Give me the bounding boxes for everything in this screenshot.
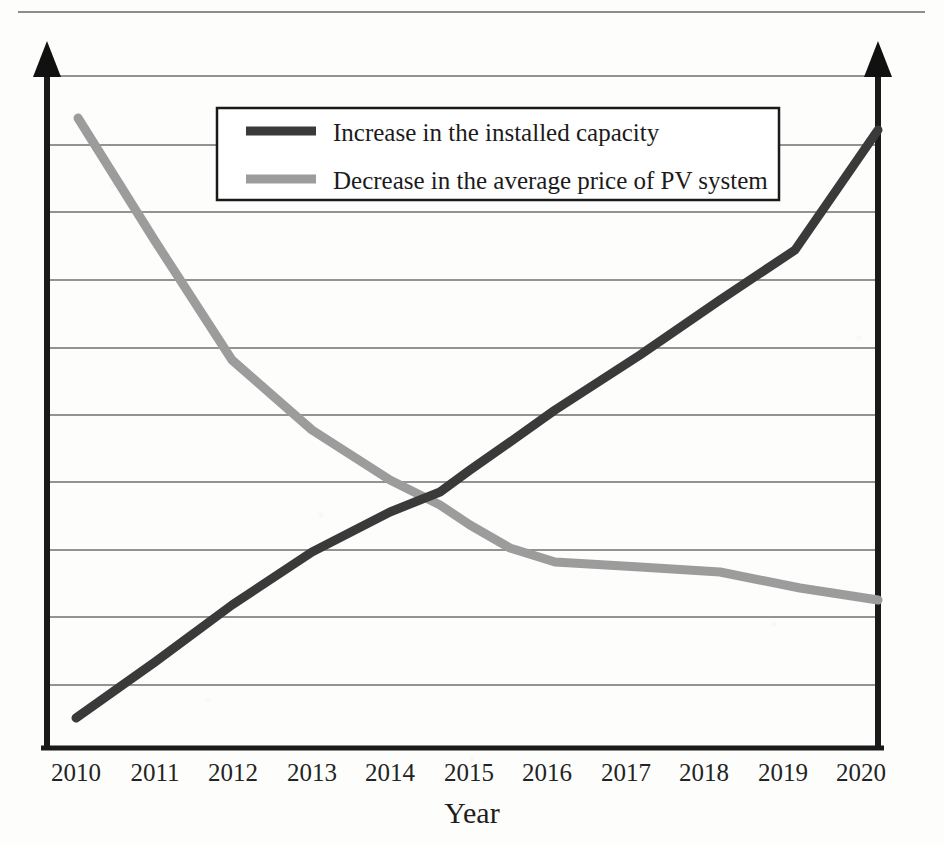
legend-label-increase-capacity: Increase in the installed capacity [333, 119, 660, 146]
x-tick-label: 2017 [601, 759, 651, 786]
line-chart: Increase in the installed capacity Decre… [0, 0, 944, 844]
chart-legend: Increase in the installed capacity Decre… [217, 108, 779, 200]
x-tick-label: 2015 [444, 759, 494, 786]
x-tick-label: 2013 [287, 759, 337, 786]
x-axis-tick-labels: 2010 2011 2012 2013 2014 2015 2016 2017 … [51, 759, 886, 786]
x-tick-label: 2019 [758, 759, 808, 786]
chart-page: Increase in the installed capacity Decre… [0, 0, 944, 844]
x-tick-label: 2014 [365, 759, 416, 786]
x-axis-title: Year [444, 796, 499, 829]
legend-label-decrease-price: Decrease in the average price of PV syst… [333, 167, 768, 194]
x-tick-label: 2020 [836, 759, 886, 786]
x-tick-label: 2016 [522, 759, 572, 786]
x-tick-label: 2012 [208, 759, 258, 786]
x-tick-label: 2018 [679, 759, 729, 786]
x-tick-label: 2010 [51, 759, 101, 786]
x-tick-label: 2011 [130, 759, 179, 786]
